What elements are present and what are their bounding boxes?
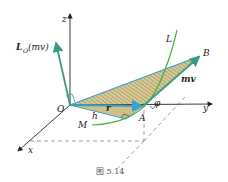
momentum-label: mv (181, 74, 197, 84)
height-label: h (92, 111, 98, 121)
angular-momentum-label: L O (mv) (15, 42, 49, 54)
curve-label: L (165, 34, 172, 44)
angle-label: φ (154, 98, 161, 108)
svg-text:(mv): (mv) (28, 42, 49, 52)
right-angle-mark-o (66, 94, 75, 102)
point-a-label: A (138, 113, 146, 123)
figure-caption: 图 5.14 (96, 167, 124, 176)
x-axis-label: x (28, 145, 33, 155)
y-axis-label: y (202, 103, 209, 113)
z-axis-label: z (61, 14, 67, 24)
origin-label: O (57, 104, 65, 114)
angular-momentum-diagram: z x y O L O (mv) L B A M mv r h φ 图 5.14 (0, 0, 228, 182)
point-m-label: M (77, 120, 88, 130)
svg-text:L: L (15, 42, 22, 52)
point-b-label: B (202, 48, 210, 58)
